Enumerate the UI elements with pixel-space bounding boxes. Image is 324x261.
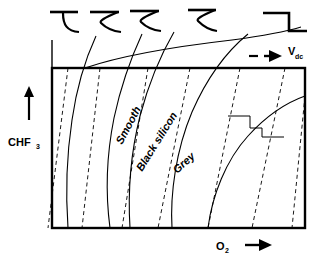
region-label-group: Smooth Black silicon Grey xyxy=(113,104,197,176)
profile-anisotropic-icon xyxy=(263,13,307,31)
figure-root: CHF 3 O 2 V dc Smooth Black silicon Grey xyxy=(0,0,324,261)
plot-area-box xyxy=(52,68,305,228)
vdc-annotation: V dc xyxy=(249,45,303,62)
profile-reentrant-icon-b xyxy=(130,11,161,31)
profile-icon-group xyxy=(50,10,307,32)
morphology-boundary-1 xyxy=(67,36,96,228)
vdc-arrow-head-icon xyxy=(269,50,282,62)
vdc-contour-group xyxy=(48,68,305,228)
phase-diagram-canvas: CHF 3 O 2 V dc Smooth Black silicon Grey xyxy=(0,0,324,261)
step-profile-inset xyxy=(228,116,284,137)
vdc-label-subscript: dc xyxy=(295,53,303,60)
x-arrow-head-icon xyxy=(259,239,272,251)
y-axis-label: CHF xyxy=(8,136,31,148)
vdc-contour-6 xyxy=(252,68,285,228)
vdc-contour-4 xyxy=(158,68,190,228)
x-axis-label-subscript: 2 xyxy=(225,247,229,254)
axis-frame xyxy=(52,40,305,228)
profile-reentrant-icon-c xyxy=(188,10,217,31)
profile-reentrant-icon-a xyxy=(90,12,121,32)
vdc-trend-line xyxy=(85,27,301,68)
x-axis-annotation: O 2 xyxy=(216,239,272,254)
morphology-boundary-4 xyxy=(172,34,248,228)
up-arrow-head-icon xyxy=(24,86,34,97)
x-axis-label: O xyxy=(216,240,225,252)
y-axis-annotation: CHF 3 xyxy=(8,86,40,150)
y-axis-label-subscript: 3 xyxy=(36,143,40,150)
vdc-contour-2 xyxy=(82,68,100,228)
profile-tapered-icon xyxy=(50,12,79,32)
morphology-boundary-5 xyxy=(208,96,305,228)
region-label-grey: Grey xyxy=(170,149,197,175)
vdc-contour-7 xyxy=(292,96,305,228)
